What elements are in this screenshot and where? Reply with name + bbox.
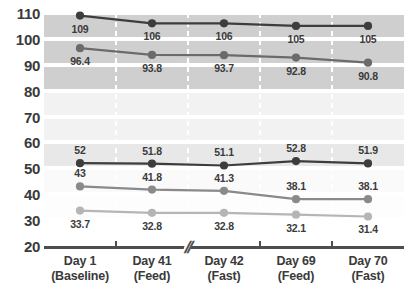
point-label: 93.7 bbox=[214, 62, 234, 74]
x-category-label-3: Day 42(Fast) bbox=[204, 254, 243, 284]
data-point bbox=[364, 159, 372, 167]
x-axis-tick-4 bbox=[331, 241, 333, 248]
x-category-label-line2: (Feed) bbox=[132, 269, 171, 284]
x-category-label-line1: Day 70 bbox=[348, 254, 387, 268]
data-point bbox=[292, 22, 300, 30]
data-point bbox=[76, 11, 84, 19]
data-point bbox=[148, 19, 156, 27]
x-category-label-4: Day 69(Feed) bbox=[276, 254, 315, 284]
x-axis-tick-1 bbox=[115, 241, 117, 248]
point-label: 92.8 bbox=[286, 65, 306, 77]
data-point bbox=[76, 44, 84, 52]
y-tick-label-110: 110 bbox=[4, 6, 40, 21]
data-point bbox=[364, 195, 372, 203]
point-label: 38.1 bbox=[358, 180, 378, 192]
x-axis-line bbox=[44, 246, 404, 249]
data-point bbox=[220, 209, 228, 217]
point-label: 51.8 bbox=[142, 145, 162, 157]
point-label: 41.8 bbox=[142, 171, 162, 183]
point-label: 32.8 bbox=[142, 220, 162, 232]
point-label: 52.8 bbox=[286, 142, 306, 154]
point-label: 105 bbox=[360, 33, 377, 45]
y-tick-label-50: 50 bbox=[4, 161, 40, 176]
data-point bbox=[76, 159, 84, 167]
x-category-label-2: Day 41(Feed) bbox=[132, 254, 171, 284]
y-tick-label-80: 80 bbox=[4, 83, 40, 98]
x-category-label-5: Day 70(Fast) bbox=[348, 254, 387, 284]
data-point bbox=[220, 187, 228, 195]
x-category-label-line1: Day 42 bbox=[204, 254, 243, 268]
point-label: 106 bbox=[216, 30, 233, 42]
point-label: 51.1 bbox=[214, 146, 234, 158]
point-label: 93.8 bbox=[142, 62, 162, 74]
point-label: 90.8 bbox=[358, 70, 378, 82]
y-tick-label-40: 40 bbox=[4, 187, 40, 202]
point-label: 32.8 bbox=[214, 220, 234, 232]
point-label: 105 bbox=[288, 33, 305, 45]
y-tick-label-70: 70 bbox=[4, 109, 40, 124]
y-tick-label-90: 90 bbox=[4, 57, 40, 72]
y-axis: 1101009080706050403020 bbox=[0, 0, 40, 297]
y-tick-label-100: 100 bbox=[4, 31, 40, 46]
plot-area bbox=[44, 13, 404, 246]
data-point bbox=[148, 160, 156, 168]
x-category-label-line2: (Baseline) bbox=[51, 269, 109, 284]
series-4-group bbox=[76, 182, 372, 203]
data-point bbox=[148, 185, 156, 193]
series-1-group bbox=[76, 11, 372, 30]
point-label: 109 bbox=[72, 23, 89, 35]
data-point bbox=[292, 211, 300, 219]
point-label: 41.3 bbox=[214, 172, 234, 184]
x-category-label-line2: (Fast) bbox=[348, 269, 387, 284]
data-point bbox=[292, 157, 300, 165]
y-tick-label-30: 30 bbox=[4, 213, 40, 228]
series-overlay bbox=[44, 13, 404, 246]
series-3-group bbox=[76, 157, 372, 170]
data-point bbox=[76, 206, 84, 214]
x-axis-tick-3 bbox=[259, 241, 261, 248]
point-label: 51.9 bbox=[358, 144, 378, 156]
x-category-label-line2: (Feed) bbox=[276, 269, 315, 284]
point-label: 32.1 bbox=[286, 222, 306, 234]
data-point bbox=[76, 182, 84, 190]
point-label: 96.4 bbox=[70, 55, 90, 67]
point-label: 31.4 bbox=[358, 223, 378, 235]
data-point bbox=[292, 195, 300, 203]
y-tick-label-20: 20 bbox=[4, 239, 40, 254]
x-category-label-line1: Day 69 bbox=[276, 254, 315, 268]
data-point bbox=[364, 59, 372, 67]
point-label: 43 bbox=[74, 167, 85, 179]
data-point bbox=[220, 161, 228, 169]
data-point bbox=[364, 212, 372, 220]
data-point bbox=[220, 51, 228, 59]
data-point bbox=[220, 19, 228, 27]
series-5-group bbox=[76, 206, 372, 220]
x-category-label-line1: Day 1 bbox=[64, 254, 96, 268]
line-chart: 1101009080706050403020 // Day 1(Baseline… bbox=[0, 0, 420, 297]
x-category-label-1: Day 1(Baseline) bbox=[51, 254, 109, 284]
data-point bbox=[148, 51, 156, 59]
point-label: 33.7 bbox=[70, 218, 90, 230]
data-point bbox=[292, 53, 300, 61]
point-label: 38.1 bbox=[286, 180, 306, 192]
point-label: 52 bbox=[74, 144, 85, 156]
x-category-label-line1: Day 41 bbox=[132, 254, 171, 268]
x-category-label-line2: (Fast) bbox=[204, 269, 243, 284]
data-point bbox=[364, 22, 372, 30]
point-label: 106 bbox=[144, 30, 161, 42]
data-point bbox=[148, 209, 156, 217]
y-tick-label-60: 60 bbox=[4, 135, 40, 150]
